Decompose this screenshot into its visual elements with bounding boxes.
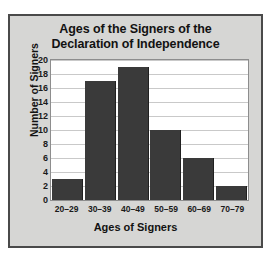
- y-tick-label: 20: [12, 55, 48, 65]
- bar-30-39: [85, 81, 116, 200]
- x-axis-label: Ages of Signers: [10, 221, 261, 233]
- x-tick-label: 50–59: [149, 204, 182, 214]
- chart-title-line-1: Ages of the Signers of the: [10, 22, 261, 37]
- y-axis-ticks: 02468101214161820: [10, 59, 48, 201]
- x-tick-label: 60–69: [183, 204, 216, 214]
- bar-40-49: [118, 67, 149, 200]
- bar-slot: [51, 60, 84, 200]
- y-tick-label: 10: [12, 125, 48, 135]
- x-axis-ticks: 20–2930–3940–4950–5960–6970–79: [50, 204, 249, 214]
- y-tick-label: 4: [12, 167, 48, 177]
- chart-title: Ages of the Signers of the Declaration o…: [10, 22, 261, 52]
- bar-20-29: [52, 179, 83, 200]
- bar-slot: [215, 60, 248, 200]
- x-tick-label: 40–49: [116, 204, 149, 214]
- y-tick-label: 2: [12, 181, 48, 191]
- y-tick-label: 18: [12, 69, 48, 79]
- bar-slot: [117, 60, 150, 200]
- chart-figure: Ages of the Signers of the Declaration o…: [8, 14, 263, 248]
- bar-slot: [182, 60, 215, 200]
- bar-50-59: [150, 130, 181, 200]
- y-tick-label: 6: [12, 153, 48, 163]
- y-tick-label: 0: [12, 195, 48, 205]
- chart-title-line-2: Declaration of Independence: [10, 37, 261, 52]
- x-tick-label: 20–29: [50, 204, 83, 214]
- bar-slot: [149, 60, 182, 200]
- y-tick-label: 12: [12, 111, 48, 121]
- bar-60-69: [183, 158, 214, 200]
- x-tick-label: 30–39: [83, 204, 116, 214]
- bar-slot: [84, 60, 117, 200]
- bar-70-79: [216, 186, 247, 200]
- y-tick-label: 16: [12, 83, 48, 93]
- y-tick-label: 8: [12, 139, 48, 149]
- x-tick-label: 70–79: [216, 204, 249, 214]
- plot-area: [50, 59, 249, 201]
- y-tick-label: 14: [12, 97, 48, 107]
- bar-series: [51, 60, 248, 200]
